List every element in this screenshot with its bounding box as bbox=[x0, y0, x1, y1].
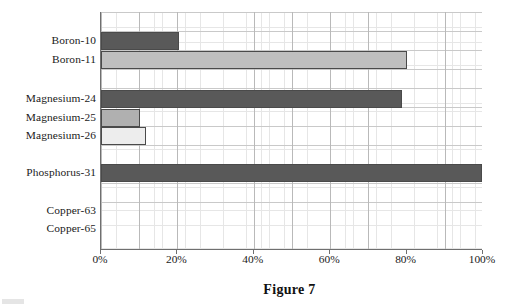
x-tick-label-60%: 60% bbox=[319, 254, 340, 265]
category-label-copper-65: Copper-65 bbox=[47, 223, 96, 234]
bar-magnesium-24 bbox=[101, 90, 402, 109]
x-tick-label-40%: 40% bbox=[242, 254, 263, 265]
bar-phosphorus-31 bbox=[101, 164, 482, 183]
category-label-magnesium-25: Magnesium-25 bbox=[26, 112, 96, 123]
bar-magnesium-26 bbox=[101, 127, 146, 146]
x-tick-label-80%: 80% bbox=[395, 254, 416, 265]
x-tick-label-100%: 100% bbox=[469, 254, 496, 265]
plot-area bbox=[100, 12, 482, 250]
category-label-boron-10: Boron-10 bbox=[52, 35, 96, 46]
category-label-copper-63: Copper-63 bbox=[47, 205, 96, 216]
figure-caption-text: Figure 7 bbox=[263, 282, 315, 298]
bar-boron-10 bbox=[101, 32, 179, 51]
bar-magnesium-25 bbox=[101, 109, 140, 128]
category-label-magnesium-24: Magnesium-24 bbox=[26, 93, 96, 104]
bar-boron-11 bbox=[101, 51, 407, 70]
figure-7: Boron-10Boron-11Magnesium-24Magnesium-25… bbox=[0, 0, 515, 307]
page-scan-artifact bbox=[2, 299, 24, 304]
figure-caption: Figure 7 bbox=[0, 282, 515, 298]
x-tick-label-20%: 20% bbox=[166, 254, 187, 265]
x-tick-label-0%: 0% bbox=[92, 254, 107, 265]
category-label-phosphorus-31: Phosphorus-31 bbox=[26, 167, 96, 178]
category-label-magnesium-26: Magnesium-26 bbox=[26, 130, 96, 141]
category-label-boron-11: Boron-11 bbox=[52, 54, 96, 65]
